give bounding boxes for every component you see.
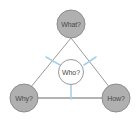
- diagram-svg: What? Why? How? Who?: [0, 0, 140, 124]
- node-how[interactable]: How?: [102, 84, 130, 112]
- node-why[interactable]: Why?: [10, 84, 38, 112]
- node-why-label: Why?: [15, 95, 33, 103]
- spoke-center-to-left-edge: [46, 57, 60, 65]
- node-what-label: What?: [61, 21, 81, 28]
- diagram-canvas: What? Why? How? Who?: [0, 0, 140, 124]
- node-what[interactable]: What?: [57, 10, 85, 38]
- spoke-center-to-right-edge: [84, 57, 96, 65]
- node-who-label: Who?: [62, 69, 80, 76]
- node-who[interactable]: Who?: [59, 60, 84, 85]
- node-how-label: How?: [107, 95, 125, 102]
